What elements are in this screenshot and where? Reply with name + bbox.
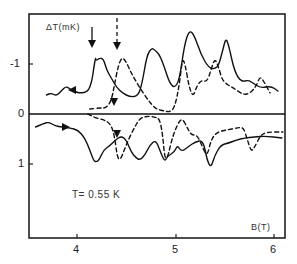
- direction-arrows: [62, 18, 121, 138]
- x-axis-label: B(T): [251, 223, 271, 232]
- x-tick-label: 4: [73, 244, 79, 255]
- y-tick-label: 0: [18, 108, 24, 119]
- temperature-annotation: T= 0.55 K: [72, 190, 120, 200]
- y-tick-label: 1: [18, 158, 24, 169]
- x-tick-label: 6: [270, 244, 276, 255]
- series-line-1: [90, 59, 270, 112]
- x-tick-label: 5: [172, 244, 178, 255]
- series-line-2: [36, 123, 282, 166]
- down-arrow-icon: [110, 98, 118, 106]
- left-arrow-icon: [68, 86, 76, 94]
- y-axis-label: ΔT(mK): [46, 23, 80, 32]
- series-line-0: [47, 32, 278, 97]
- y-tick-label: -1: [10, 58, 20, 69]
- series-layer: [36, 32, 283, 166]
- right-arrow-icon: [62, 123, 70, 131]
